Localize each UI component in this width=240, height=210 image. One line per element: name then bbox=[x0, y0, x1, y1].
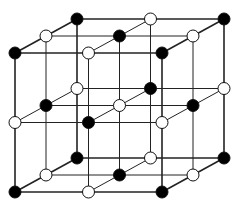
white-atom bbox=[9, 117, 21, 129]
black-atom bbox=[145, 83, 157, 95]
black-atom bbox=[218, 152, 230, 164]
white-atom bbox=[187, 169, 199, 181]
white-atom bbox=[218, 83, 230, 95]
lattice-diagram bbox=[0, 0, 240, 210]
white-atom bbox=[187, 30, 199, 42]
crystal-lattice-graphic bbox=[0, 0, 240, 210]
white-atom bbox=[156, 117, 168, 129]
white-atom bbox=[114, 100, 126, 112]
white-atom bbox=[145, 13, 157, 25]
black-atom bbox=[156, 186, 168, 198]
white-atom bbox=[83, 186, 95, 198]
black-atom bbox=[187, 100, 199, 112]
black-atom bbox=[83, 117, 95, 129]
black-atom bbox=[40, 100, 52, 112]
black-atom bbox=[218, 13, 230, 25]
black-atom bbox=[9, 186, 21, 198]
white-atom bbox=[145, 152, 157, 164]
black-atom bbox=[71, 152, 83, 164]
black-atom bbox=[114, 30, 126, 42]
white-atom bbox=[71, 83, 83, 95]
white-atom bbox=[40, 30, 52, 42]
white-atom bbox=[83, 47, 95, 59]
white-atom bbox=[40, 169, 52, 181]
black-atom bbox=[156, 47, 168, 59]
lattice-atoms bbox=[9, 13, 230, 198]
black-atom bbox=[9, 47, 21, 59]
black-atom bbox=[114, 169, 126, 181]
black-atom bbox=[71, 13, 83, 25]
